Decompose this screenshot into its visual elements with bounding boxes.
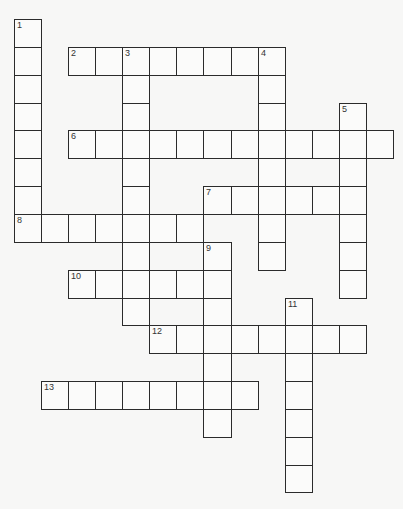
cell-letter-input[interactable]	[313, 131, 339, 158]
grid-cell-r6-c4[interactable]	[122, 186, 150, 215]
grid-cell-r1-c5[interactable]	[149, 47, 177, 76]
cell-letter-input[interactable]	[42, 215, 68, 242]
grid-cell-r4-c9[interactable]	[258, 130, 286, 159]
cell-letter-input[interactable]	[96, 382, 122, 409]
grid-cell-r13-c1[interactable]: 13	[41, 381, 69, 410]
cell-letter-input[interactable]	[286, 382, 312, 409]
cell-letter-input[interactable]	[286, 410, 312, 437]
cell-letter-input[interactable]	[96, 131, 122, 158]
grid-cell-r7-c4[interactable]	[122, 214, 150, 243]
cell-letter-input[interactable]	[177, 271, 203, 298]
cell-letter-input[interactable]	[286, 466, 312, 492]
grid-cell-r9-c5[interactable]	[149, 270, 177, 299]
grid-cell-r4-c2[interactable]: 6	[68, 130, 96, 159]
cell-letter-input[interactable]	[259, 104, 285, 130]
grid-cell-r10-c4[interactable]	[122, 298, 150, 326]
grid-cell-r11-c9[interactable]	[258, 325, 286, 354]
grid-cell-r11-c8[interactable]	[231, 325, 259, 354]
grid-cell-r11-c5[interactable]: 12	[149, 325, 177, 354]
grid-cell-r9-c2[interactable]: 10	[68, 270, 96, 299]
grid-cell-r1-c3[interactable]	[95, 47, 123, 76]
cell-letter-input[interactable]	[232, 187, 258, 214]
grid-cell-r8-c9[interactable]	[258, 242, 286, 271]
grid-cell-r8-c12[interactable]	[339, 242, 367, 271]
grid-cell-r8-c7[interactable]: 9	[203, 242, 232, 271]
grid-cell-r1-c4[interactable]: 3	[122, 47, 150, 76]
grid-cell-r10-c7[interactable]	[203, 298, 232, 326]
grid-cell-r12-c10[interactable]	[285, 353, 313, 382]
grid-cell-r7-c6[interactable]	[176, 214, 204, 243]
cell-letter-input[interactable]	[259, 326, 285, 353]
grid-cell-r2-c0[interactable]	[14, 75, 42, 104]
cell-letter-input[interactable]	[204, 48, 231, 75]
grid-cell-r13-c3[interactable]	[95, 381, 123, 410]
grid-cell-r6-c8[interactable]	[231, 186, 259, 215]
cell-letter-input[interactable]	[204, 326, 231, 353]
grid-cell-r16-c10[interactable]	[285, 465, 313, 493]
grid-cell-r6-c7[interactable]: 7	[203, 186, 232, 215]
grid-cell-r11-c7[interactable]	[203, 325, 232, 354]
grid-cell-r5-c0[interactable]	[14, 158, 42, 187]
cell-letter-input[interactable]	[232, 382, 258, 409]
grid-cell-r9-c12[interactable]	[339, 270, 367, 299]
cell-letter-input[interactable]	[177, 326, 203, 353]
grid-cell-r13-c7[interactable]	[203, 381, 232, 410]
cell-letter-input[interactable]	[150, 326, 176, 353]
cell-letter-input[interactable]	[204, 382, 231, 409]
cell-letter-input[interactable]	[15, 215, 41, 242]
cell-letter-input[interactable]	[232, 326, 258, 353]
grid-cell-r3-c12[interactable]: 5	[339, 103, 367, 131]
cell-letter-input[interactable]	[96, 215, 122, 242]
grid-cell-r13-c4[interactable]	[122, 381, 150, 410]
grid-cell-r6-c9[interactable]	[258, 186, 286, 215]
cell-letter-input[interactable]	[259, 243, 285, 270]
cell-letter-input[interactable]	[340, 243, 366, 270]
cell-letter-input[interactable]	[150, 271, 176, 298]
grid-cell-r15-c10[interactable]	[285, 437, 313, 466]
grid-cell-r9-c3[interactable]	[95, 270, 123, 299]
cell-letter-input[interactable]	[259, 215, 285, 242]
cell-letter-input[interactable]	[96, 271, 122, 298]
cell-letter-input[interactable]	[123, 48, 149, 75]
cell-letter-input[interactable]	[204, 187, 231, 214]
cell-letter-input[interactable]	[259, 159, 285, 186]
cell-letter-input[interactable]	[15, 187, 41, 214]
cell-letter-input[interactable]	[42, 382, 68, 409]
grid-cell-r3-c9[interactable]	[258, 103, 286, 131]
grid-cell-r13-c2[interactable]	[68, 381, 96, 410]
grid-cell-r2-c4[interactable]	[122, 75, 150, 104]
cell-letter-input[interactable]	[340, 131, 366, 158]
cell-letter-input[interactable]	[15, 104, 41, 130]
cell-letter-input[interactable]	[286, 131, 312, 158]
cell-letter-input[interactable]	[123, 131, 149, 158]
cell-letter-input[interactable]	[150, 131, 176, 158]
cell-letter-input[interactable]	[204, 410, 231, 437]
cell-letter-input[interactable]	[286, 438, 312, 465]
grid-cell-r4-c5[interactable]	[149, 130, 177, 159]
grid-cell-r0-c0[interactable]: 1	[14, 19, 42, 48]
cell-letter-input[interactable]	[313, 326, 339, 353]
grid-cell-r6-c10[interactable]	[285, 186, 313, 215]
grid-cell-r4-c8[interactable]	[231, 130, 259, 159]
grid-cell-r4-c3[interactable]	[95, 130, 123, 159]
cell-letter-input[interactable]	[340, 104, 366, 130]
cell-letter-input[interactable]	[340, 326, 366, 353]
grid-cell-r14-c10[interactable]	[285, 409, 313, 438]
cell-letter-input[interactable]	[123, 76, 149, 103]
cell-letter-input[interactable]	[340, 271, 366, 298]
grid-cell-r2-c9[interactable]	[258, 75, 286, 104]
cell-letter-input[interactable]	[69, 271, 95, 298]
cell-letter-input[interactable]	[204, 354, 231, 381]
grid-cell-r7-c5[interactable]	[149, 214, 177, 243]
cell-letter-input[interactable]	[340, 159, 366, 186]
grid-cell-r13-c10[interactable]	[285, 381, 313, 410]
cell-letter-input[interactable]	[313, 187, 339, 214]
cell-letter-input[interactable]	[286, 187, 312, 214]
grid-cell-r4-c4[interactable]	[122, 130, 150, 159]
cell-letter-input[interactable]	[123, 382, 149, 409]
cell-letter-input[interactable]	[123, 299, 149, 325]
cell-letter-input[interactable]	[123, 271, 149, 298]
grid-cell-r14-c7[interactable]	[203, 409, 232, 438]
cell-letter-input[interactable]	[123, 104, 149, 130]
cell-letter-input[interactable]	[177, 215, 203, 242]
